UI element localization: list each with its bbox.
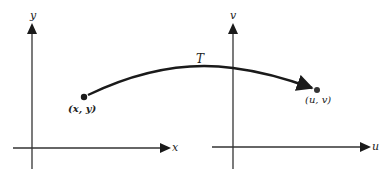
v-axis-label: v	[230, 9, 237, 22]
y-axis-arrow-icon	[27, 23, 37, 34]
target-point	[314, 87, 320, 93]
v-axis-arrow-icon	[228, 23, 238, 34]
x-axis-label: x	[172, 141, 179, 154]
right-plane: v u (u, v)	[212, 9, 379, 169]
left-plane: y x (x, y)	[13, 9, 179, 169]
target-point-label: (u, v)	[305, 94, 331, 105]
transformation-mapping: T	[88, 52, 312, 95]
y-axis-label: y	[29, 9, 37, 22]
x-axis-arrow-icon	[160, 143, 171, 153]
source-point-label: (x, y)	[68, 103, 96, 115]
transformation-diagram: y x (x, y) v u (u, v) T	[0, 0, 387, 178]
u-axis-label: u	[372, 140, 379, 153]
mapping-label: T	[196, 52, 205, 66]
u-axis-arrow-icon	[360, 142, 371, 152]
source-point	[81, 94, 87, 100]
mapping-curve	[88, 66, 312, 95]
